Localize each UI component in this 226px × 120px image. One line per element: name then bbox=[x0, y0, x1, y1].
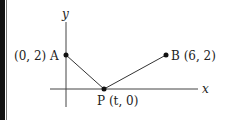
coordinate-diagram: y x (0, 2) A B (6, 2) P (t, 0) bbox=[0, 0, 226, 120]
point-p-label: P (t, 0) bbox=[97, 94, 138, 108]
y-axis-label: y bbox=[61, 7, 69, 21]
diagram-canvas: y x (0, 2) A B (6, 2) P (t, 0) bbox=[0, 0, 226, 120]
segment-ap bbox=[66, 55, 104, 89]
point-a-label: (0, 2) A bbox=[14, 49, 59, 63]
x-axis-label: x bbox=[202, 82, 209, 96]
segment-pb bbox=[104, 55, 166, 89]
point-b-dot bbox=[164, 53, 169, 58]
point-p-dot bbox=[102, 87, 107, 92]
point-b-label: B (6, 2) bbox=[171, 49, 216, 63]
point-a-dot bbox=[64, 53, 69, 58]
